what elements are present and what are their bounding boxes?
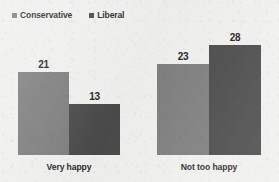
chart-legend: Conservative Liberal bbox=[12, 11, 124, 20]
bar-group-very-happy: 21 13 Very happy bbox=[18, 25, 120, 155]
bar-value-label: 23 bbox=[157, 51, 209, 62]
legend-swatch-icon-liberal bbox=[89, 13, 94, 18]
legend-swatch-icon-conservative bbox=[12, 13, 17, 18]
plot-area: 21 13 Very happy 23 28 bbox=[0, 0, 279, 182]
legend-entry-conservative: Conservative bbox=[12, 11, 72, 20]
bar-slot-liberal: 13 bbox=[69, 25, 120, 155]
bar-chart: Conservative Liberal 21 13 Very happy bbox=[0, 0, 279, 182]
category-label-not-too-happy: Not too happy bbox=[157, 162, 261, 172]
bar-group-bars: 23 28 bbox=[157, 25, 261, 155]
bar-conservative-not-too-happy[interactable] bbox=[157, 64, 209, 155]
bar-liberal-not-too-happy[interactable] bbox=[209, 45, 261, 155]
bar-value-label: 21 bbox=[18, 59, 69, 70]
bar-value-label: 28 bbox=[209, 32, 261, 43]
bar-slot-conservative: 21 bbox=[18, 25, 69, 155]
legend-label-liberal: Liberal bbox=[97, 11, 124, 20]
legend-entry-liberal: Liberal bbox=[89, 11, 124, 20]
category-label-very-happy: Very happy bbox=[18, 162, 120, 172]
bar-conservative-very-happy[interactable] bbox=[18, 72, 69, 155]
bar-group-bars: 21 13 bbox=[18, 25, 120, 155]
bar-slot-conservative: 23 bbox=[157, 25, 209, 155]
bar-group-not-too-happy: 23 28 Not too happy bbox=[157, 25, 261, 155]
legend-label-conservative: Conservative bbox=[20, 11, 72, 20]
bar-slot-liberal: 28 bbox=[209, 25, 261, 155]
bar-liberal-very-happy[interactable] bbox=[69, 104, 120, 155]
bar-value-label: 13 bbox=[69, 91, 120, 102]
